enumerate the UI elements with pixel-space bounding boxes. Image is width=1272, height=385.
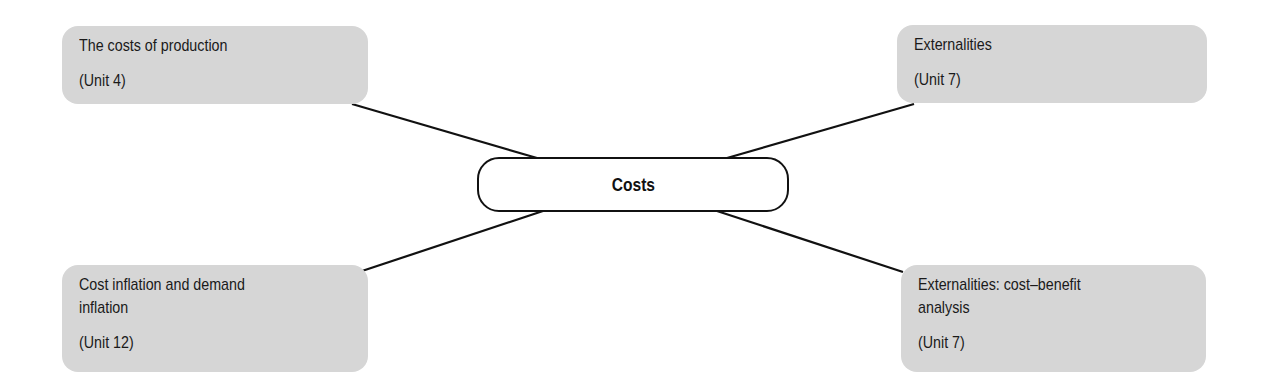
node-cost-inflation: Cost inflation and demand inflation (Uni… xyxy=(62,265,368,372)
connector-top-left xyxy=(352,104,537,158)
mind-map-diagram: The costs of production (Unit 4) Externa… xyxy=(0,0,1272,385)
connector-bottom-left xyxy=(362,211,543,271)
node-title: Cost inflation and demand inflation xyxy=(79,273,322,319)
node-costs-of-production: The costs of production (Unit 4) xyxy=(62,26,368,104)
connector-bottom-right xyxy=(717,211,903,272)
node-unit: (Unit 7) xyxy=(914,68,1160,91)
node-unit: (Unit 7) xyxy=(918,331,1160,354)
node-unit: (Unit 12) xyxy=(79,331,322,354)
center-node-costs: Costs xyxy=(477,157,789,212)
node-externalities: Externalities (Unit 7) xyxy=(897,25,1207,103)
node-unit: (Unit 4) xyxy=(79,69,322,92)
node-cost-benefit-analysis: Externalities: cost–benefit analysis (Un… xyxy=(901,265,1206,372)
connector-top-right xyxy=(727,104,914,158)
node-title: Externalities: cost–benefit analysis xyxy=(918,273,1160,319)
node-title: Externalities xyxy=(914,33,1160,56)
center-label: Costs xyxy=(611,174,654,196)
node-title: The costs of production xyxy=(79,34,322,57)
